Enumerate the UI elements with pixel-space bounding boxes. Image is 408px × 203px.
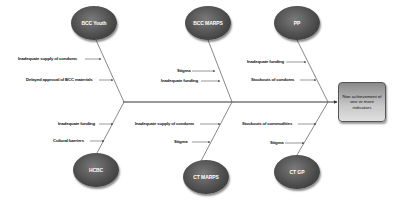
category-label: BCC Youth [81, 20, 106, 26]
cause-label: Stockouts of commodities [242, 121, 292, 126]
cause-label: Inadequate supply of condoms [18, 56, 77, 61]
cause-label: Delayed approval of BCC materials [26, 77, 92, 82]
cause-label: Inadequate funding [58, 121, 95, 126]
category-pp: PP [274, 6, 320, 40]
cause-label: Inadequate supply of condoms [135, 121, 194, 126]
category-bcc-youth: BCC Youth [71, 6, 117, 40]
effect-label: Non achievement of one or more indicator… [339, 94, 385, 111]
category-ct-gp: CT GP [274, 155, 320, 189]
category-label: BCC MARPS [193, 20, 222, 26]
cause-label: Inadequate funding [247, 59, 284, 64]
cause-label: Stigma [270, 140, 283, 145]
cause-label: Stigma [177, 68, 190, 73]
cause-label: Stigma [174, 139, 187, 144]
cause-label: Inadequate funding [161, 78, 198, 83]
category-hcbc: HCBC [73, 153, 119, 187]
effect-box: Non achievement of one or more indicator… [338, 82, 386, 122]
category-ct-marps: CT MARPS [183, 160, 229, 194]
category-label: CT MARPS [193, 174, 218, 180]
cause-label: Stockouts of condoms [251, 77, 294, 82]
category-label: HCBC [89, 167, 103, 173]
category-bcc-marps: BCC MARPS [185, 6, 231, 40]
category-label: CT GP [290, 169, 305, 175]
cause-label: Cultural barriers [53, 138, 84, 143]
category-label: PP [294, 20, 300, 26]
